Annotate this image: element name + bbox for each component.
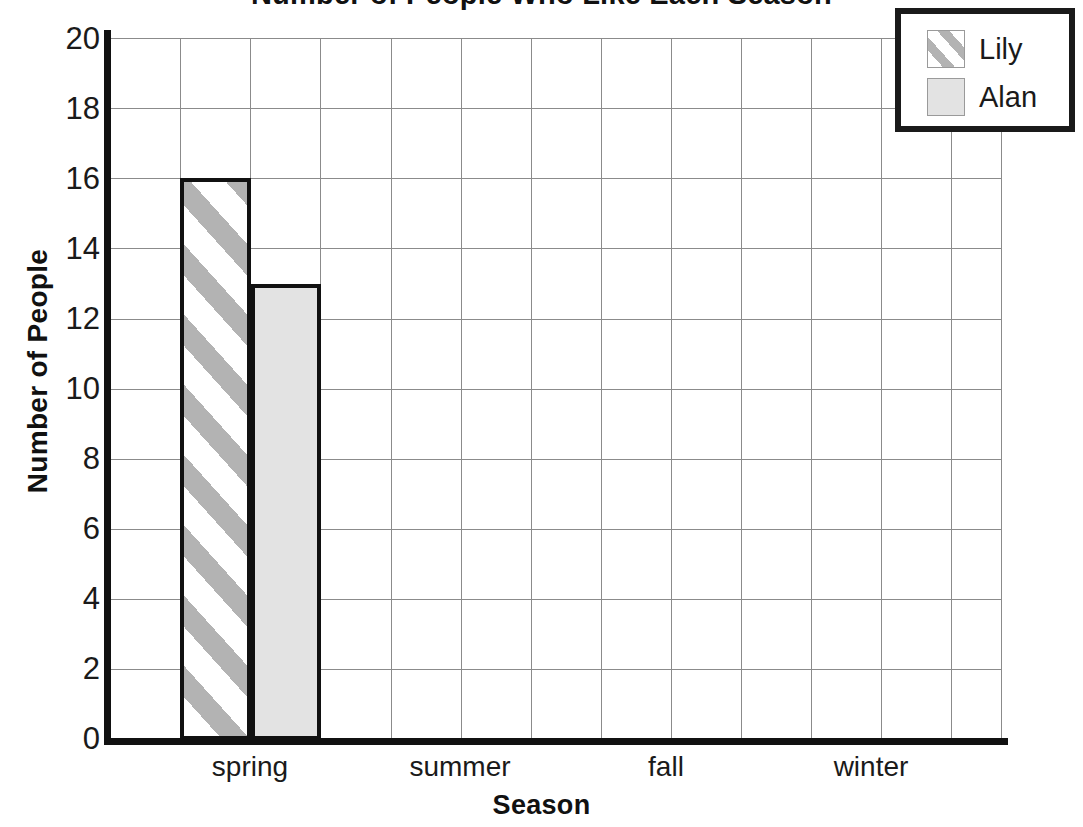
y-axis-tick-labels: 20 18 16 14 12 10 8 6 4 2 0	[0, 0, 100, 827]
x-tick-winter: winter	[761, 752, 981, 782]
hatch-swatch-icon	[927, 30, 965, 68]
gridline-v-right-edge	[1001, 38, 1002, 740]
gridline-v-9	[741, 38, 742, 740]
bar-alan-spring[interactable]	[251, 284, 321, 740]
gridline-v-12	[951, 38, 952, 740]
y-axis-line	[104, 30, 111, 744]
y-tick-6: 6	[8, 513, 100, 544]
y-tick-16: 16	[8, 163, 100, 194]
legend-item-alan[interactable]: Alan	[927, 78, 1037, 116]
x-axis-line	[104, 738, 1008, 745]
y-tick-4: 4	[8, 583, 100, 614]
gridline-h-18	[110, 108, 1002, 109]
y-tick-0: 0	[8, 723, 100, 754]
gridline-v-7	[601, 38, 602, 740]
y-tick-10: 10	[8, 373, 100, 404]
gridline-v-11	[881, 38, 882, 740]
y-tick-2: 2	[8, 653, 100, 684]
gridline-v-5	[461, 38, 462, 740]
gridline-v-8	[671, 38, 672, 740]
y-tick-14: 14	[8, 233, 100, 264]
solid-swatch-icon	[927, 78, 965, 116]
y-tick-20: 20	[8, 23, 100, 54]
x-axis-title: Season	[0, 790, 1083, 821]
legend-label-alan: Alan	[979, 82, 1037, 112]
y-tick-12: 12	[8, 303, 100, 334]
x-tick-spring: spring	[140, 752, 360, 782]
gridline-v-4	[391, 38, 392, 740]
bar-lily-spring[interactable]	[180, 178, 251, 740]
gridline-h-20	[110, 38, 1002, 39]
x-tick-summer: summer	[350, 752, 570, 782]
legend-label-lily: Lily	[979, 34, 1023, 64]
x-tick-fall: fall	[556, 752, 776, 782]
y-tick-18: 18	[8, 93, 100, 124]
chart-legend[interactable]: Lily Alan	[895, 8, 1075, 132]
gridline-v-10	[811, 38, 812, 740]
gridline-v-6	[531, 38, 532, 740]
y-tick-8: 8	[8, 443, 100, 474]
plot-area	[110, 38, 1002, 740]
legend-item-lily[interactable]: Lily	[927, 30, 1023, 68]
